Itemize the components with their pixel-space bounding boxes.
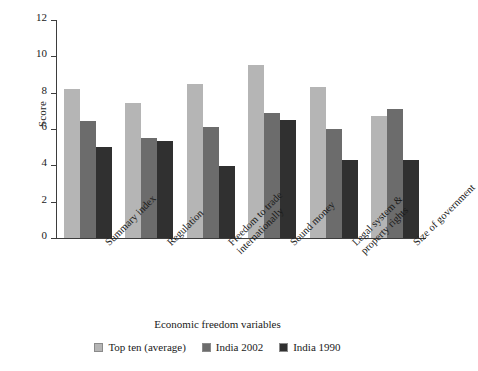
y-tick: 6 bbox=[51, 129, 56, 130]
chart-legend: Top ten (average)India 2002India 1990 bbox=[0, 341, 435, 353]
legend-label: India 1990 bbox=[293, 341, 340, 353]
y-tick: 0 bbox=[51, 238, 56, 239]
bar-group bbox=[57, 20, 119, 238]
y-tick-label: 12 bbox=[36, 12, 47, 23]
y-tick-label: 10 bbox=[36, 48, 47, 59]
bar-group bbox=[180, 20, 242, 238]
legend-item[interactable]: Top ten (average) bbox=[94, 341, 185, 353]
bar-groups bbox=[57, 20, 426, 238]
y-tick: 4 bbox=[51, 165, 56, 166]
bar bbox=[157, 141, 173, 238]
legend-swatch bbox=[94, 343, 103, 352]
bar bbox=[342, 160, 358, 238]
y-tick-label: 0 bbox=[42, 230, 48, 241]
bar bbox=[403, 160, 419, 238]
y-tick: 2 bbox=[51, 202, 56, 203]
x-axis-category-labels: Summary indexRegulationFreedom to tradei… bbox=[56, 240, 426, 318]
plot-area: 024681012 bbox=[56, 20, 426, 238]
x-axis-label: Freedom to tradeinternationally bbox=[226, 240, 244, 258]
y-tick: 12 bbox=[51, 20, 56, 21]
x-axis-label: Size of government bbox=[411, 240, 420, 249]
x-axis-label: Regulation bbox=[165, 240, 174, 249]
y-tick-label: 2 bbox=[42, 194, 48, 205]
x-axis-label-line: property rights bbox=[358, 249, 367, 258]
x-axis-label-line: internationally bbox=[235, 249, 244, 258]
y-tick-label: 6 bbox=[42, 121, 48, 132]
x-axis-label: Summary index bbox=[103, 240, 112, 249]
legend-label: India 2002 bbox=[216, 341, 263, 353]
bar bbox=[96, 147, 112, 238]
y-tick: 10 bbox=[51, 56, 56, 57]
bar bbox=[203, 127, 219, 238]
bar bbox=[80, 121, 96, 238]
x-axis-label: Legal system &property rights bbox=[350, 240, 368, 258]
x-axis-label: Sound money bbox=[288, 240, 297, 249]
y-tick-label: 8 bbox=[42, 85, 48, 96]
bar bbox=[64, 89, 80, 238]
bar bbox=[326, 129, 342, 238]
bar bbox=[141, 138, 157, 238]
x-axis-title: Economic freedom variables bbox=[0, 318, 435, 330]
legend-label: Top ten (average) bbox=[108, 341, 185, 353]
y-tick-label: 4 bbox=[42, 157, 48, 168]
legend-swatch bbox=[202, 343, 211, 352]
bar bbox=[219, 166, 235, 238]
bar bbox=[280, 120, 296, 238]
legend-swatch bbox=[279, 343, 288, 352]
y-tick: 8 bbox=[51, 93, 56, 94]
legend-item[interactable]: India 1990 bbox=[279, 341, 340, 353]
legend-item[interactable]: India 2002 bbox=[202, 341, 263, 353]
